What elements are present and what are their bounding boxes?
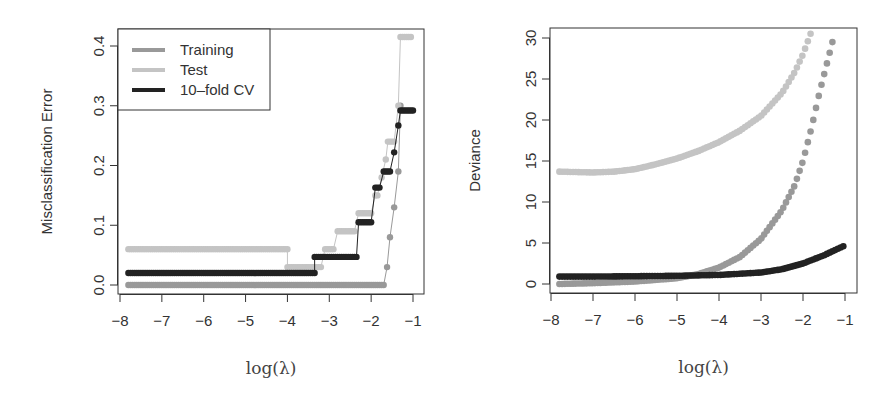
- x-tick-label: −6: [626, 311, 643, 328]
- connector-line: [390, 207, 394, 237]
- data-point: [805, 139, 812, 146]
- data-point: [821, 71, 828, 78]
- x-tick-label: −8: [111, 312, 128, 329]
- plot-frame: [550, 28, 857, 293]
- data-point: [374, 192, 380, 198]
- data-point: [796, 168, 803, 175]
- data-point: [318, 264, 324, 270]
- connector-line: [371, 188, 375, 223]
- data-point: [815, 93, 822, 100]
- data-point: [813, 105, 820, 112]
- data-point: [410, 107, 416, 113]
- data-point: [807, 128, 814, 135]
- misclassification-chart: −8−7−6−5−4−3−2−10.00.10.20.30.4log(λ)Mis…: [38, 29, 424, 378]
- legend-label: Training: [180, 41, 234, 58]
- data-point: [408, 34, 414, 40]
- data-point: [802, 45, 809, 52]
- x-tick-label: −1: [404, 312, 421, 329]
- x-tick-label: −7: [584, 311, 601, 328]
- y-tick-label: 0.0: [90, 275, 107, 296]
- data-point: [805, 38, 812, 45]
- x-tick-label: −1: [836, 311, 853, 328]
- data-point: [794, 64, 801, 71]
- connector-line: [398, 37, 400, 106]
- y-tick-label: 15: [522, 153, 539, 170]
- data-point: [802, 150, 809, 157]
- data-point: [840, 243, 847, 250]
- data-point: [807, 30, 814, 37]
- data-point: [799, 52, 806, 59]
- y-tick-label: 0: [522, 280, 539, 288]
- data-point: [826, 49, 833, 56]
- legend: TrainingTest10–fold CV: [118, 29, 270, 110]
- y-tick-label: 0.3: [90, 95, 107, 116]
- series-test: [556, 30, 814, 175]
- connector-line: [356, 222, 358, 257]
- data-point: [824, 60, 831, 67]
- data-point: [818, 81, 825, 88]
- data-point: [791, 183, 798, 190]
- legend-label: Test: [180, 61, 208, 78]
- y-tick-label: 25: [522, 71, 539, 88]
- x-tick-label: −2: [363, 312, 380, 329]
- x-axis-label: log(λ): [678, 357, 729, 377]
- data-point: [810, 117, 817, 124]
- x-tick-label: −8: [542, 311, 559, 328]
- y-axis-label: Misclassification Error: [38, 89, 55, 235]
- data-point: [796, 58, 803, 65]
- x-tick-label: −2: [794, 311, 811, 328]
- x-tick-label: −5: [237, 312, 254, 329]
- data-point: [799, 160, 806, 167]
- x-tick-label: −3: [752, 311, 769, 328]
- x-tick-label: −6: [195, 312, 212, 329]
- y-tick-label: 10: [522, 194, 539, 211]
- y-tick-label: 0.2: [90, 155, 107, 176]
- connector-line: [387, 237, 390, 267]
- data-point: [368, 210, 374, 216]
- y-tick-label: 0.4: [90, 36, 107, 57]
- figure-canvas: −8−7−6−5−4−3−2−10.00.10.20.30.4log(λ)Mis…: [0, 0, 896, 401]
- y-tick-label: 5: [522, 239, 539, 247]
- series-10-fold-cv: [556, 243, 847, 280]
- connector-line: [394, 171, 398, 207]
- y-tick-label: 30: [522, 30, 539, 47]
- data-point: [794, 176, 801, 183]
- y-axis-label: Deviance: [466, 129, 483, 192]
- data-point: [829, 39, 836, 46]
- y-tick-label: 20: [522, 112, 539, 129]
- y-tick-label: 0.1: [90, 215, 107, 236]
- x-tick-label: −5: [668, 311, 685, 328]
- data-point: [791, 70, 798, 77]
- data-point: [351, 228, 357, 234]
- legend-label: 10–fold CV: [180, 81, 254, 98]
- x-tick-label: −7: [153, 312, 170, 329]
- series-training: [125, 103, 403, 289]
- x-tick-label: −3: [321, 312, 338, 329]
- x-axis-label: log(λ): [246, 358, 297, 378]
- x-tick-label: −4: [279, 312, 296, 329]
- deviance-chart: −8−7−6−5−4−3−2−1051015202530log(λ)Devian…: [466, 28, 857, 377]
- x-tick-label: −4: [710, 311, 727, 328]
